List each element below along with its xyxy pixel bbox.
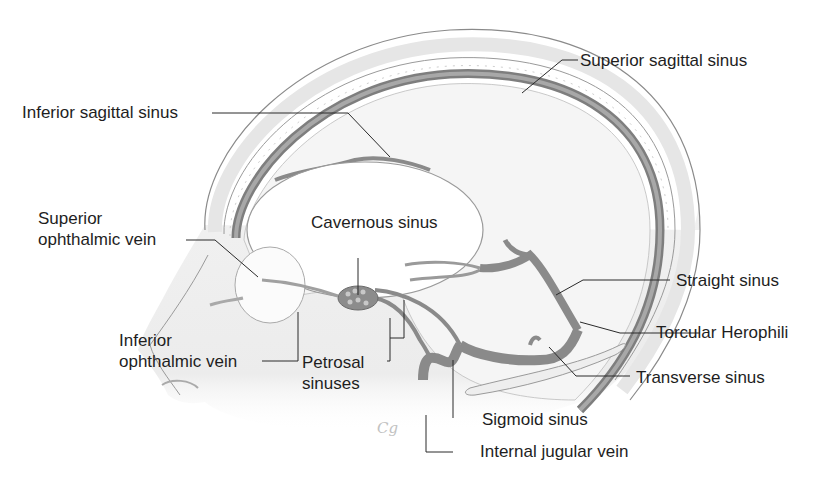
label-transverse-sinus: Transverse sinus	[636, 367, 765, 388]
label-inferior-ophthalmic-vein: Inferior ophthalmic vein	[119, 330, 237, 372]
label-internal-jugular-vein: Internal jugular vein	[480, 441, 628, 462]
label-straight-sinus: Straight sinus	[676, 270, 779, 291]
artist-signature: Cg	[377, 419, 398, 437]
venous-sinus-diagram: Cg Superior sagittal sinus Inferior sagi…	[0, 0, 833, 488]
label-torcular-herophili: Torcular Herophili	[656, 322, 788, 343]
label-sigmoid-sinus: Sigmoid sinus	[482, 409, 588, 430]
label-superior-sagittal-sinus: Superior sagittal sinus	[580, 50, 747, 71]
label-cavernous-sinus: Cavernous sinus	[311, 212, 438, 233]
label-petrosal-sinuses: Petrosal sinuses	[302, 352, 364, 394]
label-superior-ophthalmic-vein: Superior ophthalmic vein	[38, 208, 156, 250]
label-inferior-sagittal-sinus: Inferior sagittal sinus	[22, 102, 178, 123]
